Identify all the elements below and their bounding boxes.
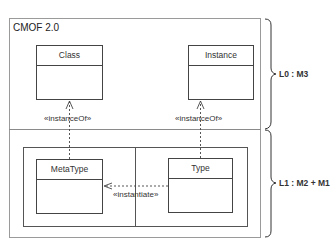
dependency-arrow-type-metatype <box>104 183 168 189</box>
layer-label-l0: L0 : M3 <box>279 69 308 79</box>
brace-l1-icon <box>265 130 276 237</box>
stereotype-label: «instanceOf» <box>44 114 91 123</box>
dependency-arrow-metatype-class <box>66 101 73 159</box>
stereotype-label: «instantiate» <box>113 190 158 199</box>
dependency-arrow-type-instance <box>197 101 204 158</box>
layer-label-l1: L1 : M2 + M1 <box>279 178 330 188</box>
stereotype-label: «instanceOf» <box>175 114 222 123</box>
brace-l0-icon <box>265 19 276 129</box>
